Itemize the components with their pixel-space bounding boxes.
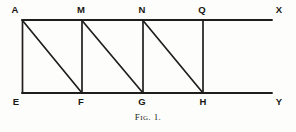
vertex-label-X: X — [276, 5, 282, 15]
diagonal-NH — [143, 21, 203, 94]
diagonal-AF — [23, 21, 83, 94]
vertex-label-N: N — [139, 5, 146, 15]
figure-caption: FIG. 1. — [0, 112, 296, 122]
vertex-label-M: M — [77, 5, 85, 15]
vertex-label-A: A — [12, 5, 19, 15]
vertex-label-E: E — [13, 97, 19, 107]
caption-suffix: . 1. — [148, 112, 161, 122]
vertex-label-Q: Q — [198, 5, 205, 15]
vertex-label-H: H — [200, 97, 207, 107]
vertex-label-G: G — [138, 97, 145, 107]
vertex-label-F: F — [78, 97, 84, 107]
diagonal-MG — [82, 21, 143, 94]
vertex-label-Y: Y — [276, 97, 282, 107]
figure-container: A M N Q X E F G H Y FIG. 1. — [0, 0, 296, 132]
